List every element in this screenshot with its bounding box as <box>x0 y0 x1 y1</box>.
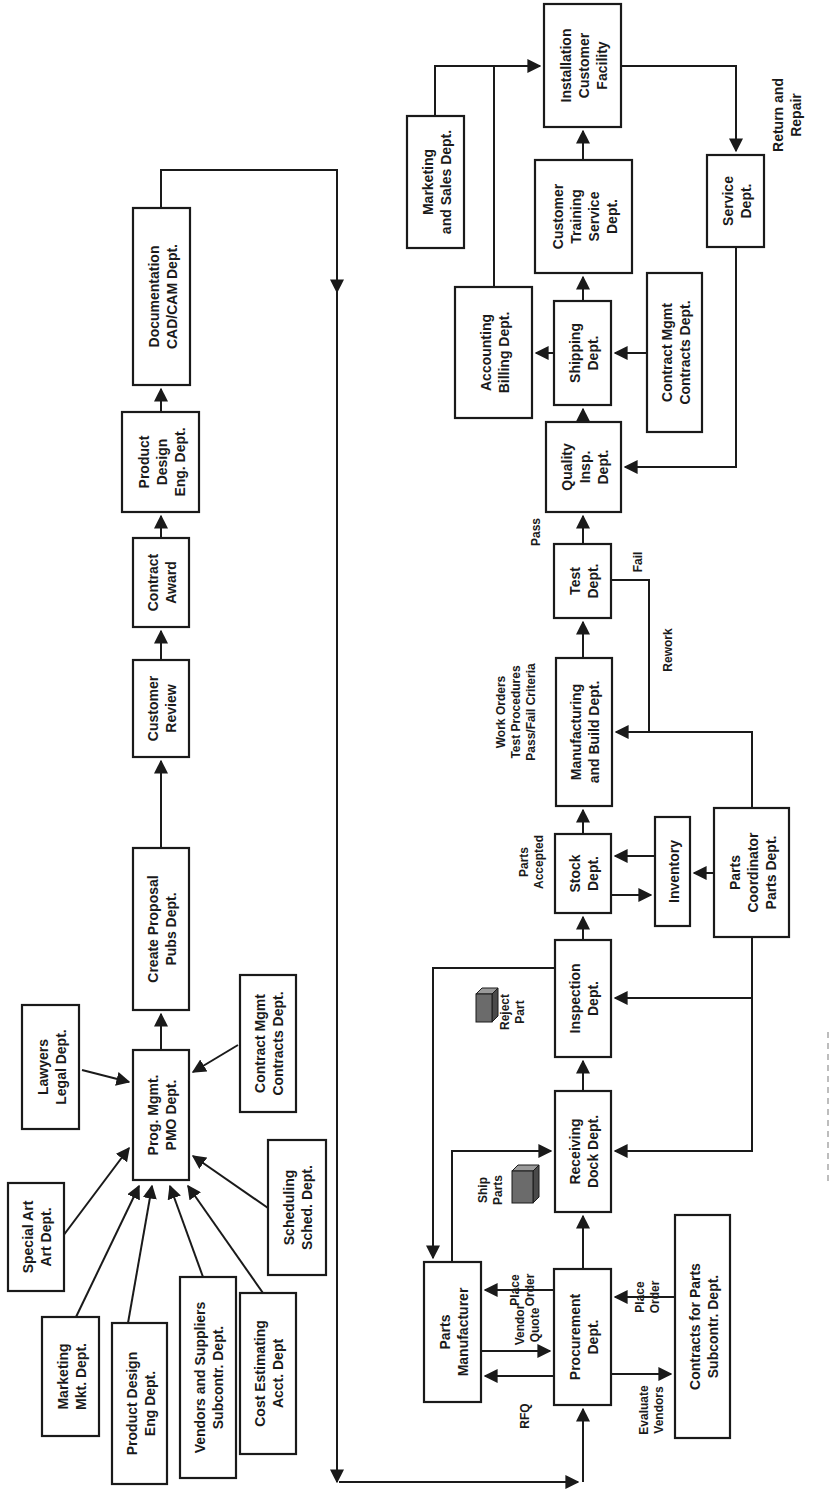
node-marketing-mkt: MarketingMkt. Dept. <box>42 1317 99 1436</box>
annotation-place-order-mfr-line: Order <box>523 1273 537 1306</box>
node-inspection: InspectionDept. <box>555 940 611 1057</box>
node-product-design-top: ProductDesignEng. Dept. <box>122 412 199 512</box>
node-receiving-label-line: Receiving <box>567 1118 583 1184</box>
node-special-art-label-line: Art Dept. <box>38 1207 54 1266</box>
annotation-place-order-contracts-line: Place <box>633 1281 647 1313</box>
node-procurement-label-line: Dept. <box>585 1320 601 1355</box>
node-scheduling-label-line: Scheduling <box>281 1170 297 1245</box>
process-flow-diagram: Special ArtArt Dept.MarketingMkt. Dept.P… <box>0 0 829 1491</box>
node-marketing-sales-label-line: and Sales Dept. <box>438 130 454 234</box>
annotation-place-order-mfr-line: Place <box>508 1274 522 1306</box>
node-customer-training-label-line: Service <box>586 191 602 241</box>
annotation-return-repair: Return andRepair <box>770 78 804 152</box>
node-create-proposal-label-line: Pubs Dept. <box>163 892 179 965</box>
annotation-parts-accepted-line: Parts <box>517 847 531 877</box>
annotation-pass-line: Pass <box>529 518 543 546</box>
node-inspection-label-line: Dept. <box>585 981 601 1016</box>
annotation-fail-line: Fail <box>631 552 645 573</box>
node-marketing-mkt-label-line: Mkt. Dept. <box>73 1343 89 1410</box>
node-shipping-label-line: Shipping <box>567 323 583 383</box>
node-customer-review-label-line: Review <box>163 684 179 732</box>
node-vendors-suppliers: Vendors and SuppliersSubcontr. Dept. <box>180 1277 236 1478</box>
node-marketing-sales-label-line: Marketing <box>420 149 436 215</box>
node-product-design-eng-label-line: Eng Dept. <box>142 1371 158 1436</box>
annotation-ship-parts: ShipParts <box>476 1175 505 1205</box>
node-cost-estimating-label-line: Cost Estimating <box>252 1320 268 1427</box>
annotation-rework-line: Rework <box>661 628 675 672</box>
node-documentation-label-line: CAD/CAM Dept. <box>164 244 180 349</box>
annotation-vendor-quote-line: Quote <box>528 1307 542 1342</box>
node-test: TestDept. <box>554 544 611 618</box>
node-quality-label-line: Insp. <box>577 451 593 484</box>
node-contracts-parts-label-line: Contracts for Parts <box>687 1263 703 1390</box>
node-lawyers-label-line: Legal Dept. <box>53 1029 69 1104</box>
annotation-fail: Fail <box>631 552 645 573</box>
node-contract-mgmt-right-label-line: Contract Mgmt <box>659 303 675 402</box>
node-customer-training-label-line: Training <box>568 189 584 243</box>
node-vendors-suppliers-label-line: Subcontr. Dept. <box>210 1326 226 1429</box>
node-inventory-label-line: Inventory <box>666 840 682 903</box>
node-accounting-billing-label-line: Billing Dept. <box>496 312 512 394</box>
node-inventory: Inventory <box>655 817 690 926</box>
node-marketing-sales: Marketingand Sales Dept. <box>407 116 464 248</box>
node-customer-review-label-line: Customer <box>145 675 161 741</box>
node-service: ServiceDept. <box>707 155 764 247</box>
node-contract-award: ContractAward <box>133 538 189 627</box>
node-product-design-eng: Product DesignEng Dept. <box>112 1323 167 1484</box>
node-parts-coordinator-label-line: Parts Dept. <box>763 836 779 910</box>
annotation-parts-accepted-line: Accepted <box>532 835 546 889</box>
node-prog-mgmt-label-line: PMO Dept. <box>163 1080 179 1151</box>
node-documentation-label-line: Documentation <box>146 246 162 348</box>
annotation-work-orders: Work OrdersTest ProceduresPass/Fail Crit… <box>494 663 538 761</box>
node-documentation: DocumentationCAD/CAM Dept. <box>133 208 190 385</box>
node-parts-manufacturer: PartsManufacturer <box>424 1262 481 1402</box>
node-procurement-label-line: Procurement <box>567 1293 583 1380</box>
node-contract-mgmt-right-label-line: Contracts Dept. <box>677 300 693 404</box>
node-lawyers-label-line: Lawyers <box>35 1039 51 1095</box>
annotation-work-orders-line: Test Procedures <box>509 665 523 758</box>
annotation-rfq: RFQ <box>518 1403 532 1428</box>
node-prog-mgmt: Prog. Mgmt.PMO Dept. <box>133 1050 189 1180</box>
node-cost-estimating: Cost EstimatingAcct. Dept <box>240 1293 296 1454</box>
node-accounting-billing-label-line: Accounting <box>478 314 494 391</box>
node-manufacturing-label-line: Manufacturing <box>568 684 584 780</box>
node-contract-mgmt-left: Contract MgmtContracts Dept. <box>240 975 296 1112</box>
node-shipping-label-line: Dept. <box>585 336 601 371</box>
annotation-return-repair-line: Return and <box>770 78 786 152</box>
node-create-proposal-label-line: Create Proposal <box>145 875 161 982</box>
node-parts-manufacturer-label-line: Manufacturer <box>455 1287 471 1376</box>
node-scheduling-label-line: Sched. Dept. <box>299 1165 315 1250</box>
node-quality-label-line: Quality <box>559 443 575 491</box>
node-contract-award-label-line: Award <box>163 561 179 604</box>
annotation-evaluate-vendors: EvaluateVendors <box>637 1385 666 1435</box>
annotation-reject-part-line: Reject <box>498 994 512 1030</box>
annotation-reject-part-line: Part <box>513 1000 527 1023</box>
node-service-label-line: Dept. <box>738 184 754 219</box>
node-service-label-line: Service <box>720 176 736 226</box>
node-inspection-label-line: Inspection <box>567 963 583 1033</box>
node-manufacturing-label-line: and Build Dept. <box>586 681 602 784</box>
node-contract-mgmt-left-label-line: Contracts Dept. <box>270 991 286 1095</box>
node-marketing-mkt-label-line: Marketing <box>55 1343 71 1409</box>
node-create-proposal: Create ProposalPubs Dept. <box>133 848 189 1010</box>
annotation-pass: Pass <box>529 518 543 546</box>
node-product-design-top-label-line: Eng. Dept. <box>172 427 188 496</box>
node-vendors-suppliers-label-line: Vendors and Suppliers <box>192 1301 208 1453</box>
node-contracts-parts: Contracts for PartsSubcontr. Dept. <box>675 1215 730 1438</box>
node-product-design-top-label-line: Design <box>154 439 170 486</box>
node-special-art: Special ArtArt Dept. <box>8 1183 64 1291</box>
node-stock-label-line: Dept. <box>585 856 601 891</box>
reject-part-icon <box>476 988 498 1022</box>
node-lawyers: LawyersLegal Dept. <box>22 1005 79 1129</box>
annotation-place-order-contracts: PlaceOrder <box>633 1280 662 1313</box>
node-accounting-billing: AccountingBilling Dept. <box>455 287 532 418</box>
annotation-work-orders-line: Pass/Fail Criteria <box>524 663 538 761</box>
annotation-vendor-quote-line: Vendor <box>513 1304 527 1345</box>
node-contract-award-label-line: Contract <box>145 553 161 611</box>
node-manufacturing: Manufacturingand Build Dept. <box>556 658 612 806</box>
annotation-vendor-quote: VendorQuote <box>513 1304 542 1345</box>
node-inventory-label: Inventory <box>666 840 682 903</box>
node-shipping: ShippingDept. <box>554 301 611 405</box>
node-customer-training: CustomerTrainingServiceDept. <box>535 160 632 273</box>
node-parts-coordinator: PartsCoordinatorParts Dept. <box>714 808 789 937</box>
